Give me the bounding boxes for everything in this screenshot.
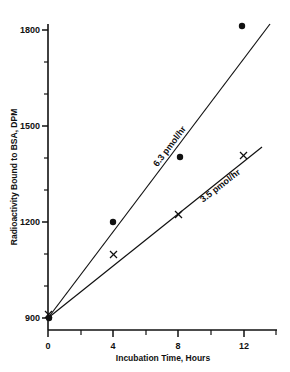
data-point-x-12h	[240, 152, 247, 159]
data-point-circle-12h	[239, 23, 245, 29]
x-tick-label-8: 8	[175, 341, 180, 351]
x-axis-title: Incubation Time, Hours	[116, 353, 211, 363]
y-tick-label-1800: 1800	[20, 25, 40, 35]
y-tick-label-1200: 1200	[20, 217, 40, 227]
y-tick-label-900: 900	[25, 313, 40, 323]
x-tick-label-4: 4	[110, 341, 115, 351]
data-point-x-4h	[110, 251, 117, 258]
data-point-circle-4h	[110, 219, 116, 225]
data-point-x-8h	[175, 211, 182, 218]
scatter-plot: 1800 1500 1200 900 0 4 8 12 Incubation T…	[0, 0, 290, 372]
y-axis-title: Radioactivity Bound to BSA, DPM	[9, 109, 19, 245]
x-tick-label-0: 0	[45, 341, 50, 351]
data-point-circle-8h	[177, 154, 183, 160]
chart-figure: 1800 1500 1200 900 0 4 8 12 Incubation T…	[0, 0, 290, 372]
series-annotation-3-5: 3.5 pmol/hr	[198, 167, 242, 205]
series-annotation-6-3: 6.3 pmol/hr	[151, 124, 188, 169]
y-tick-label-1500: 1500	[20, 121, 40, 131]
x-tick-label-12: 12	[239, 341, 249, 351]
